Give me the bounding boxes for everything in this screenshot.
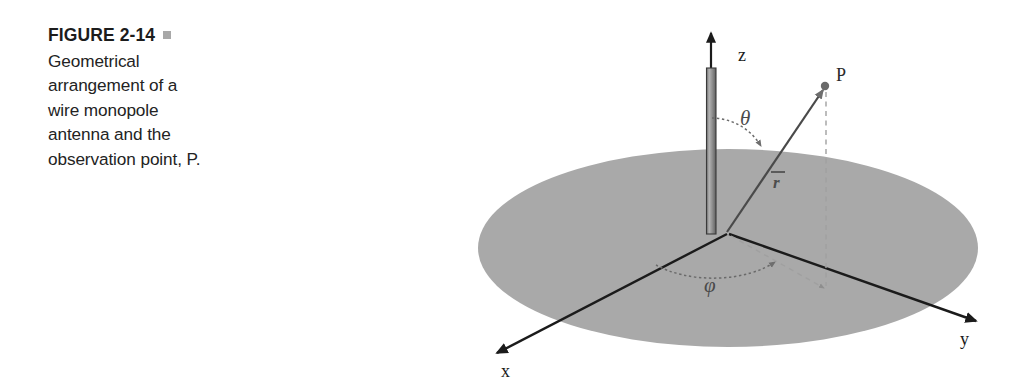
figure-number-heading: FIGURE 2-14	[48, 24, 253, 47]
figure-page: FIGURE 2-14 Geometrical arrangement of a…	[0, 0, 1024, 389]
phi-label: φ	[704, 273, 716, 297]
ground-plane-ellipse	[478, 149, 978, 347]
square-marker-icon	[163, 31, 171, 39]
point-p-dot	[821, 82, 829, 90]
monopole-antenna-diagram: z x y θ φ r P	[455, 0, 1024, 389]
point-p-label: P	[836, 65, 846, 85]
figure-caption: FIGURE 2-14 Geometrical arrangement of a…	[48, 24, 253, 171]
figure-caption-body: Geometrical arrangement of a wire monopo…	[48, 49, 208, 171]
x-axis-label: x	[501, 361, 510, 381]
y-axis-label: y	[960, 329, 969, 349]
r-vector-label: r	[773, 173, 780, 192]
figure-number-text: FIGURE 2-14	[48, 25, 155, 45]
theta-label: θ	[740, 106, 750, 130]
monopole-wire	[707, 68, 717, 234]
theta-arc	[712, 118, 761, 146]
z-axis-label: z	[738, 45, 746, 65]
figure-illustration: z x y θ φ r P	[455, 0, 1024, 389]
